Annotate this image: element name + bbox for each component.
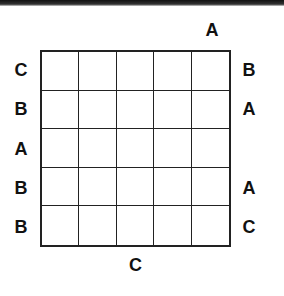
grid-cell-r1-c3[interactable] xyxy=(117,52,154,91)
grid-cell-r5-c3[interactable] xyxy=(117,206,154,245)
clue-right-4: A xyxy=(239,178,259,198)
clue-right-1: B xyxy=(239,60,259,80)
puzzle-grid xyxy=(40,50,231,247)
grid-cell-r4-c2[interactable] xyxy=(79,168,116,207)
grid-cell-r4-c4[interactable] xyxy=(154,168,191,207)
grid-cell-r3-c1[interactable] xyxy=(42,129,79,168)
grid-cell-r5-c4[interactable] xyxy=(154,206,191,245)
grid-cell-r3-c2[interactable] xyxy=(79,129,116,168)
clue-bottom-3: C xyxy=(126,255,146,275)
grid-cell-r1-c4[interactable] xyxy=(154,52,191,91)
clue-left-5: B xyxy=(11,217,31,237)
clue-top-5: A xyxy=(202,20,222,40)
grid-cell-r3-c3[interactable] xyxy=(117,129,154,168)
grid-cell-r1-c5[interactable] xyxy=(192,52,229,91)
grid-cell-r2-c3[interactable] xyxy=(117,91,154,130)
clue-left-3: A xyxy=(11,139,31,159)
grid-cell-r4-c3[interactable] xyxy=(117,168,154,207)
grid-cell-r1-c2[interactable] xyxy=(79,52,116,91)
clue-right-2: A xyxy=(239,99,259,119)
grid-cell-r5-c2[interactable] xyxy=(79,206,116,245)
grid-cell-r5-c5[interactable] xyxy=(192,206,229,245)
grid-cell-r2-c4[interactable] xyxy=(154,91,191,130)
clue-left-2: B xyxy=(11,99,31,119)
clue-left-4: B xyxy=(11,178,31,198)
grid-cell-r4-c5[interactable] xyxy=(192,168,229,207)
top-bar xyxy=(0,0,284,6)
grid-cell-r3-c5[interactable] xyxy=(192,129,229,168)
clue-left-1: C xyxy=(11,60,31,80)
grid-cell-r1-c1[interactable] xyxy=(42,52,79,91)
grid-cell-r2-c5[interactable] xyxy=(192,91,229,130)
grid-cell-r2-c1[interactable] xyxy=(42,91,79,130)
grid-cell-r4-c1[interactable] xyxy=(42,168,79,207)
grid-cell-r2-c2[interactable] xyxy=(79,91,116,130)
clue-right-5: C xyxy=(239,217,259,237)
grid-cell-r3-c4[interactable] xyxy=(154,129,191,168)
grid-cell-r5-c1[interactable] xyxy=(42,206,79,245)
